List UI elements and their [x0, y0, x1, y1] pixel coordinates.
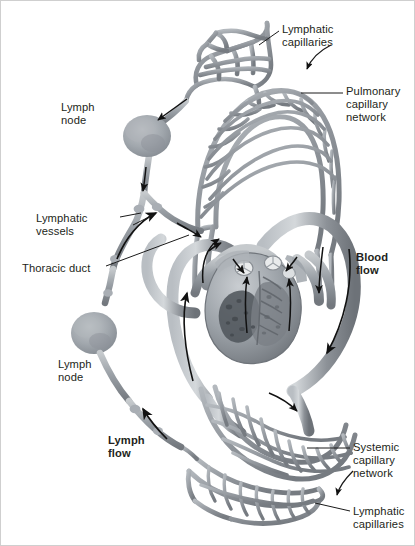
lymph-vessel-chain-structure [71, 193, 201, 447]
leader-lymphatic-capillaries-bottom [315, 503, 350, 511]
label-lymphatic-vessels: Lymphatic vessels [36, 212, 87, 238]
label-lymph-node-lower: Lymph node [58, 358, 92, 384]
label-lymphatic-capillaries-bottom: Lymphatic capillaries [353, 505, 404, 531]
label-lymph-flow: Lymph flow [108, 434, 145, 460]
leader-systemic-curve [337, 471, 353, 495]
heart-cutaway-structure [205, 251, 307, 364]
label-pulmonary-capillary-network: Pulmonary capillary network [346, 85, 400, 125]
lymphatic-capillary-plexus-top-structure [186, 23, 271, 103]
lymph-vessel-upper-structure [123, 101, 186, 193]
label-systemic-capillary-network: Systemic capillary network [353, 441, 399, 481]
figure-canvas: Lymphatic capillaries Pulmonary capillar… [0, 0, 415, 546]
label-lymph-node-upper: Lymph node [61, 101, 95, 127]
label-thoracic-duct: Thoracic duct [22, 262, 90, 275]
systemic-capillary-bed-structure [201, 387, 355, 479]
lymphatic-capillary-plexus-bottom-structure [181, 447, 323, 524]
label-blood-flow: Blood flow [356, 251, 388, 277]
label-lymphatic-capillaries-top: Lymphatic capillaries [282, 23, 333, 49]
